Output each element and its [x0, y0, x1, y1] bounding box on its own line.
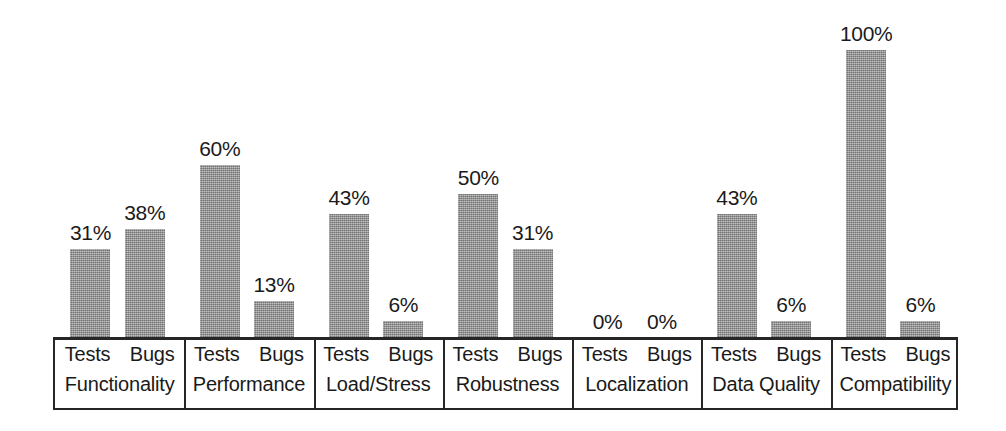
series-label-row: TestsBugs — [55, 343, 184, 366]
bar[interactable] — [458, 194, 498, 338]
bar-chart: 31%38%60%13%43%6%50%31%0%0%43%6%100%6% T… — [0, 0, 1006, 431]
bar-value-label: 43% — [700, 186, 774, 210]
bar-value-label: 100% — [829, 22, 903, 46]
category-label-row: Robustness — [443, 373, 572, 396]
series-label-row: TestsBugs — [184, 343, 313, 366]
series-label-tests: Tests — [65, 343, 111, 366]
label-group: TestsBugsData Quality — [701, 340, 830, 408]
bar-slot: 100% — [846, 0, 886, 338]
bar-slot: 38% — [125, 0, 165, 338]
bar-group: 60%13% — [182, 0, 311, 338]
bar-slot: 0% — [588, 0, 628, 338]
bar-slot: 6% — [383, 0, 423, 338]
bar-slot: 43% — [329, 0, 369, 338]
category-label-row: Data Quality — [701, 373, 830, 396]
category-label-row: Functionality — [55, 373, 184, 396]
bar-slot: 60% — [200, 0, 240, 338]
series-label-row: TestsBugs — [443, 343, 572, 366]
series-label-tests: Tests — [453, 343, 499, 366]
series-label-tests: Tests — [582, 343, 628, 366]
category-label-row: Load/Stress — [314, 373, 443, 396]
bar-group: 31%38% — [53, 0, 182, 338]
bar-value-label: 6% — [366, 293, 440, 317]
series-label-tests: Tests — [711, 343, 757, 366]
category-label: Data Quality — [712, 373, 820, 395]
bar-slot: 6% — [771, 0, 811, 338]
bar-value-label: 43% — [312, 186, 386, 210]
bar-value-label: 0% — [625, 310, 699, 334]
bar[interactable] — [383, 321, 423, 338]
series-label-tests: Tests — [323, 343, 369, 366]
label-group: TestsBugsFunctionality — [55, 340, 184, 408]
category-label-row: Compatibility — [831, 373, 960, 396]
bar-slot: 43% — [717, 0, 757, 338]
series-label-bugs: Bugs — [905, 343, 950, 366]
label-group: TestsBugsLocalization — [572, 340, 701, 408]
bar-slot: 13% — [254, 0, 294, 338]
category-label: Functionality — [65, 373, 175, 395]
bar-value-label: 60% — [183, 137, 257, 161]
label-group: TestsBugsLoad/Stress — [314, 340, 443, 408]
category-label: Performance — [193, 373, 305, 395]
series-label-tests: Tests — [840, 343, 886, 366]
bar[interactable] — [513, 249, 553, 338]
bar-group: 43%6% — [699, 0, 828, 338]
series-label-row: TestsBugs — [831, 343, 960, 366]
series-label-bugs: Bugs — [776, 343, 821, 366]
plot-area: 31%38%60%13%43%6%50%31%0%0%43%6%100%6% — [53, 0, 958, 338]
bar-value-label: 6% — [883, 293, 957, 317]
bar-group: 0%0% — [570, 0, 699, 338]
category-label: Load/Stress — [326, 373, 431, 395]
bar[interactable] — [70, 249, 110, 338]
series-label-bugs: Bugs — [647, 343, 692, 366]
category-label: Compatibility — [839, 373, 951, 395]
label-group: TestsBugsPerformance — [184, 340, 313, 408]
series-label-bugs: Bugs — [130, 343, 175, 366]
bar[interactable] — [717, 214, 757, 338]
bar[interactable] — [846, 50, 886, 338]
bar-group: 43%6% — [312, 0, 441, 338]
bar[interactable] — [125, 229, 165, 338]
bar-value-label: 38% — [108, 201, 182, 225]
series-label-bugs: Bugs — [259, 343, 304, 366]
category-label-box: TestsBugsFunctionalityTestsBugsPerforman… — [53, 338, 958, 410]
bar[interactable] — [771, 321, 811, 338]
series-label-row: TestsBugs — [572, 343, 701, 366]
category-label: Robustness — [456, 373, 560, 395]
bar-slot: 50% — [458, 0, 498, 338]
bar[interactable] — [200, 165, 240, 338]
series-label-tests: Tests — [194, 343, 240, 366]
series-label-row: TestsBugs — [701, 343, 830, 366]
bar-slot: 31% — [513, 0, 553, 338]
bar-group: 100%6% — [829, 0, 958, 338]
bar-slot: 0% — [642, 0, 682, 338]
bar-slot: 31% — [70, 0, 110, 338]
bar-value-label: 31% — [496, 221, 570, 245]
bar[interactable] — [900, 321, 940, 338]
bar-group: 50%31% — [441, 0, 570, 338]
bar-slot: 6% — [900, 0, 940, 338]
bar-value-label: 50% — [441, 166, 515, 190]
series-label-bugs: Bugs — [388, 343, 433, 366]
bar-value-label: 6% — [754, 293, 828, 317]
label-group: TestsBugsRobustness — [443, 340, 572, 408]
category-label-row: Performance — [184, 373, 313, 396]
series-label-bugs: Bugs — [518, 343, 563, 366]
category-label: Localization — [585, 373, 688, 395]
label-group: TestsBugsCompatibility — [831, 340, 960, 408]
bar[interactable] — [329, 214, 369, 338]
series-label-row: TestsBugs — [314, 343, 443, 366]
bar-value-label: 13% — [237, 273, 311, 297]
category-label-row: Localization — [572, 373, 701, 396]
bar[interactable] — [254, 301, 294, 338]
